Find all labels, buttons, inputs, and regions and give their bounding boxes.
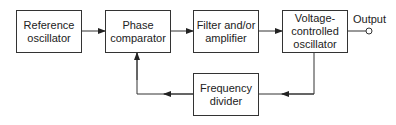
frequency-divider-block: Frequency divider [193, 73, 259, 116]
output-terminal-icon [366, 28, 372, 34]
vco-block: Voltage- controlled oscillator [282, 10, 348, 53]
phase-comparator-block: Phase comparator [105, 10, 171, 53]
output-label: Output [353, 13, 386, 25]
filter-amplifier-block: Filter and/or amplifier [193, 10, 259, 53]
reference-oscillator-block: Reference oscillator [16, 10, 82, 53]
